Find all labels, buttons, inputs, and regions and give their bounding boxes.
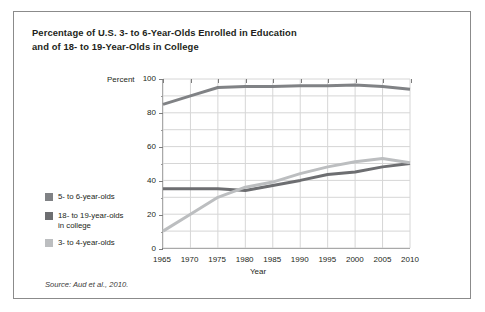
y-tick-minor-mark — [161, 96, 163, 97]
y-tick-minor-mark — [161, 198, 163, 199]
y-tick-minor-mark — [161, 164, 163, 165]
legend-label-3-to-4: 3- to 4-year-olds — [58, 238, 155, 248]
x-axis-label: Year — [250, 267, 266, 276]
y-tick-mark — [159, 215, 163, 216]
x-tick-mark — [163, 79, 164, 83]
series-lines — [163, 85, 410, 231]
source-note: Source: Aud et al., 2010. — [45, 280, 128, 289]
plot-area — [162, 79, 410, 249]
y-tick-label: 40 — [126, 176, 156, 185]
y-tick-mark — [159, 147, 163, 148]
x-tick-mark — [273, 79, 274, 83]
x-tick-mark — [301, 79, 302, 83]
legend-label-18-to-19-line2: in college — [58, 221, 155, 231]
gridlines — [163, 79, 410, 248]
y-tick-mark — [159, 113, 163, 114]
x-tick-mark — [356, 79, 357, 83]
chart-legend: 5- to 6-year-olds 18- to 19-year-olds in… — [45, 192, 155, 257]
chart-title-line-1: Percentage of U.S. 3- to 6-Year-Olds Enr… — [32, 26, 402, 40]
y-tick-mark — [159, 181, 163, 182]
legend-label-18-to-19-line1: 18- to 19-year-olds — [58, 211, 155, 221]
chart-lines — [163, 79, 410, 248]
x-tick-mark — [328, 79, 329, 83]
legend-label-5-to-6: 5- to 6-year-olds — [58, 192, 155, 202]
figure-frame: Percentage of U.S. 3- to 6-Year-Olds Enr… — [13, 11, 471, 299]
chart-title-line-2: and of 18- to 19-Year-Olds in College — [32, 40, 402, 54]
legend-item-18-to-19: 18- to 19-year-olds in college — [45, 211, 155, 230]
y-tick-mark — [159, 249, 163, 250]
series-line-1 — [163, 85, 410, 104]
legend-swatch-3-to-4 — [45, 239, 53, 247]
chart-title: Percentage of U.S. 3- to 6-Year-Olds Enr… — [32, 26, 402, 53]
x-tick-mark — [383, 79, 384, 83]
x-tick-mark — [218, 79, 219, 83]
legend-swatch-5-to-6 — [45, 193, 53, 201]
y-tick-label: 80 — [126, 108, 156, 117]
y-tick-minor-mark — [161, 232, 163, 233]
y-tick-label: 100 — [126, 74, 156, 83]
x-tick-mark — [246, 79, 247, 83]
y-tick-minor-mark — [161, 130, 163, 131]
x-tick-mark — [191, 79, 192, 83]
legend-swatch-18-to-19 — [45, 212, 53, 220]
x-tick-label: 2010 — [393, 255, 427, 264]
legend-item-3-to-4: 3- to 4-year-olds — [45, 238, 155, 249]
legend-item-5-to-6: 5- to 6-year-olds — [45, 192, 155, 203]
y-tick-label: 60 — [126, 142, 156, 151]
x-tick-mark — [411, 79, 412, 83]
